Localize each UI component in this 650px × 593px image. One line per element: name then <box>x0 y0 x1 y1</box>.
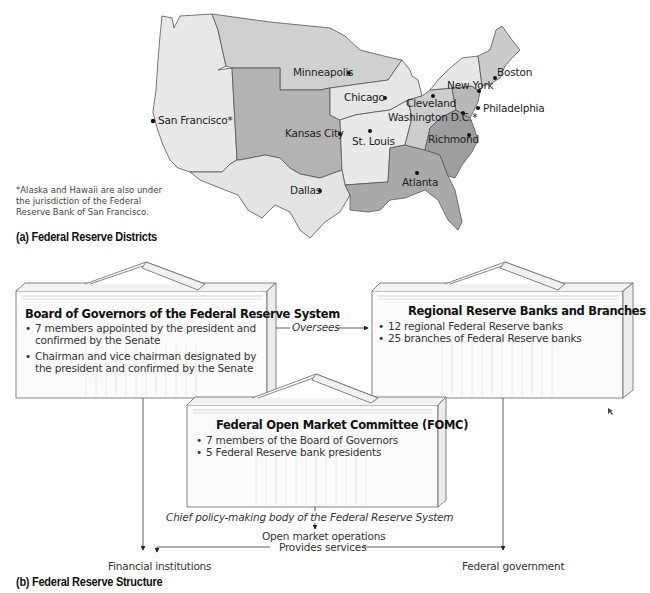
fomc-item: 7 members of the Board of Governors <box>196 434 436 446</box>
provides-services-label: Provides services <box>279 541 366 553</box>
board-title: Board of Governors of the Federal Reserv… <box>25 307 340 321</box>
board-item: 7 members appointed by the president and… <box>25 322 265 346</box>
regional-item: 12 regional Federal Reserve banks <box>378 320 618 332</box>
board-item: Chairman and vice chairman designated by… <box>25 350 265 374</box>
board-list: 7 members appointed by the president and… <box>25 322 265 378</box>
structure-diagram-graphics <box>0 0 650 593</box>
regional-list: 12 regional Federal Reserve banks 25 bra… <box>378 320 618 344</box>
fomc-item: 5 Federal Reserve bank presidents <box>196 446 436 458</box>
regional-item: 25 branches of Federal Reserve banks <box>378 332 618 344</box>
federal-government-label: Federal government <box>462 560 564 572</box>
fomc-list: 7 members of the Board of Governors 5 Fe… <box>196 434 436 458</box>
financial-institutions-label: Financial institutions <box>108 560 211 572</box>
fomc-title: Federal Open Market Committee (FOMC) <box>216 418 468 432</box>
fomc-subtitle: Chief policy-making body of the Federal … <box>166 511 453 523</box>
structure-caption: (b) Federal Reserve Structure <box>16 575 162 589</box>
oversees-label: Oversees <box>292 321 340 333</box>
regional-title: Regional Reserve Banks and Branches <box>408 304 646 318</box>
mouse-cursor-icon <box>608 408 613 415</box>
